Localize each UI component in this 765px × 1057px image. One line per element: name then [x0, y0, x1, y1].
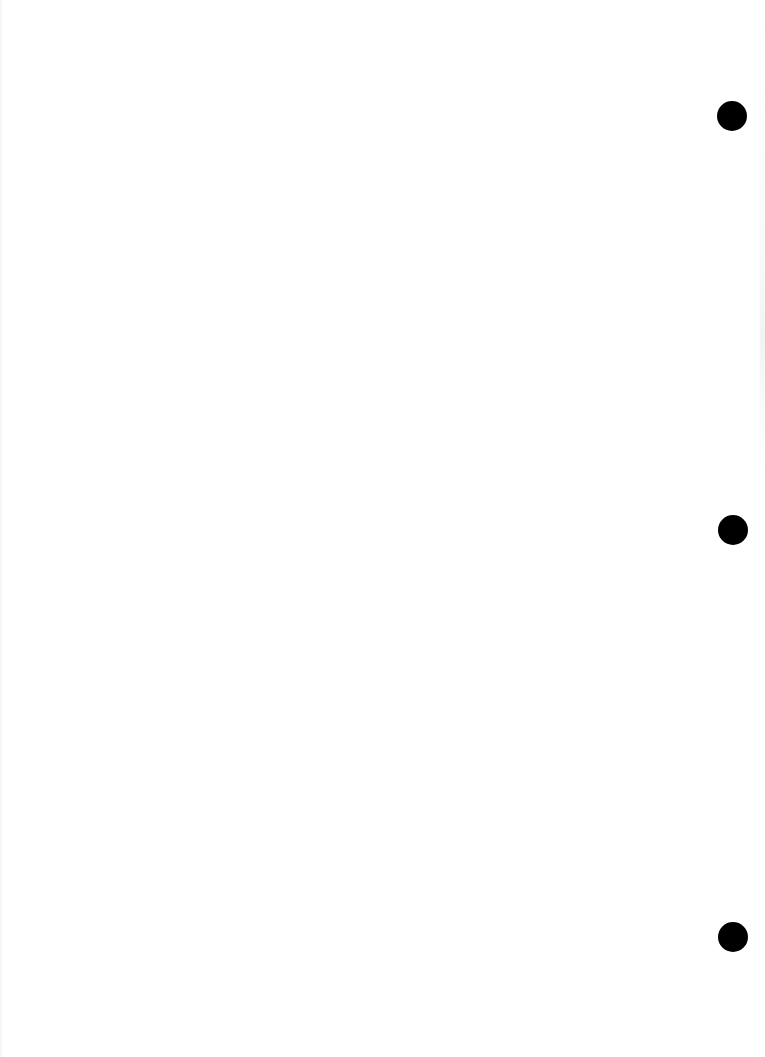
punch-hole-top [717, 101, 747, 131]
punch-hole-middle [718, 515, 748, 545]
punch-hole-bottom [718, 922, 748, 952]
right-scan-edge [760, 0, 765, 1057]
left-scan-edge [0, 0, 3, 1057]
blank-page [0, 0, 765, 1057]
